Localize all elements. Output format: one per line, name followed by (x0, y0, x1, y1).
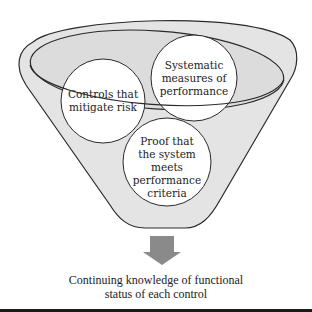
output-caption: Continuing knowledge of functional statu… (0, 274, 312, 301)
down-arrow-icon (143, 236, 181, 265)
circle-systematic-label: Systematic measures of performance (151, 59, 237, 98)
circle-controls-label: Controls that mitigate risk (61, 88, 145, 114)
circle-proof-label: Proof that the system meets performance … (123, 135, 211, 200)
